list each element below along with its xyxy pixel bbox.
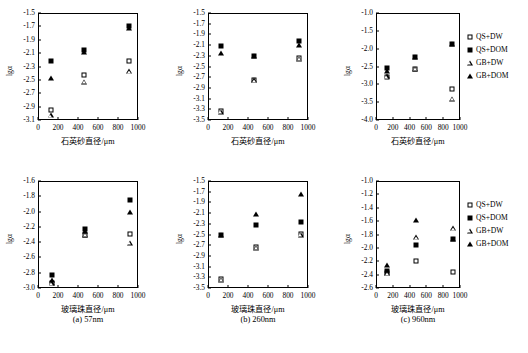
y-tick-label: -2.2 xyxy=(350,258,373,265)
data-point xyxy=(413,242,418,247)
legend-marker-square-open xyxy=(466,201,473,208)
data-point-square-open xyxy=(467,202,472,207)
data-point-square-filled xyxy=(467,215,472,220)
legend-label: QS+DOM xyxy=(476,214,508,222)
figure-container: -1.5-1.7-1.9-2.1-2.3-2.5-2.7-2.9-3.10200… xyxy=(0,0,528,353)
x-tick-label: 0 xyxy=(374,292,378,299)
chart-legend: QS+DWQS+DOMGB+DWGB+DOM xyxy=(466,198,509,250)
data-point xyxy=(384,271,390,276)
data-point-triangle-open xyxy=(467,228,473,233)
x-tick-mark xyxy=(426,285,427,288)
x-tick-label: 600 xyxy=(421,292,432,299)
y-tick-mark xyxy=(376,247,379,248)
legend-item: GB+DW xyxy=(466,224,509,237)
y-tick-mark xyxy=(376,261,379,262)
x-tick-mark xyxy=(376,285,377,288)
x-tick-mark xyxy=(409,285,410,288)
x-tick-mark xyxy=(392,285,393,288)
x-tick-mark xyxy=(460,285,461,288)
legend-item: QS+DOM xyxy=(466,211,509,224)
data-point xyxy=(413,259,418,264)
y-tick-mark xyxy=(376,194,379,195)
y-tick-mark xyxy=(376,274,379,275)
y-tick-label: -2.6 xyxy=(350,284,373,291)
y-tick-label: -1.6 xyxy=(350,217,373,224)
legend-item: GB+DOM xyxy=(466,237,509,250)
legend-label: GB+DW xyxy=(476,227,503,235)
panel-caption: (c) 960nm xyxy=(401,315,436,324)
y-tick-label: -1.0 xyxy=(350,177,373,184)
x-tick-label: 1000 xyxy=(453,292,468,299)
data-point xyxy=(450,237,456,242)
y-tick-mark xyxy=(376,221,379,222)
chart-panel-bottom-right: -1.0-1.2-1.4-1.6-1.8-2.0-2.2-2.4-2.60200… xyxy=(0,0,528,353)
data-point-triangle-filled xyxy=(467,241,473,246)
data-point xyxy=(450,226,456,231)
y-tick-label: -1.2 xyxy=(350,191,373,198)
legend-marker-triangle-open xyxy=(466,227,473,234)
legend-marker-square-filled xyxy=(466,214,473,221)
y-tick-label: -1.4 xyxy=(350,204,373,211)
y-tick-mark xyxy=(376,234,379,235)
data-point xyxy=(413,235,419,240)
legend-label: QS+DW xyxy=(476,201,503,209)
data-point xyxy=(450,269,455,274)
y-tick-label: -2.4 xyxy=(350,271,373,278)
x-axis-label: 玻璃珠直径/μm xyxy=(391,302,444,314)
x-tick-label: 800 xyxy=(438,292,449,299)
y-tick-mark xyxy=(376,181,379,182)
legend-item: QS+DW xyxy=(466,198,509,211)
data-point xyxy=(384,262,390,267)
data-point xyxy=(413,217,419,222)
legend-label: GB+DOM xyxy=(476,240,509,248)
y-tick-label: -1.8 xyxy=(350,231,373,238)
x-tick-mark xyxy=(443,285,444,288)
legend-marker-triangle-filled xyxy=(466,240,473,247)
x-tick-label: 400 xyxy=(404,292,415,299)
y-tick-label: -2.0 xyxy=(350,244,373,251)
y-axis-label: lgα xyxy=(343,234,352,244)
y-tick-mark xyxy=(376,207,379,208)
x-tick-label: 200 xyxy=(387,292,398,299)
